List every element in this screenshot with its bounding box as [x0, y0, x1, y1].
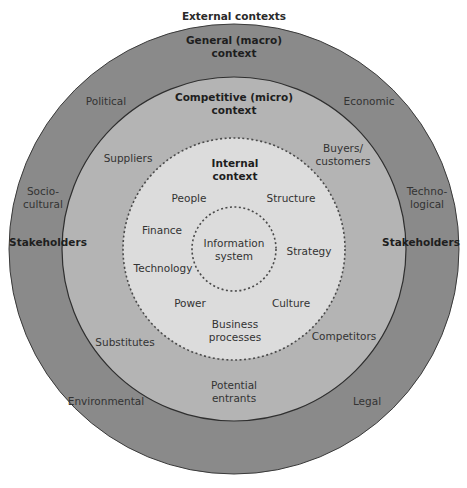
external-contexts-title: External contexts: [182, 10, 286, 23]
substitutes-label: Substitutes: [95, 336, 154, 349]
strategy-label: Strategy: [287, 245, 332, 258]
structure-label: Structure: [267, 192, 316, 205]
sociocultural-label: Socio- cultural: [23, 185, 63, 211]
information-system-label: Information system: [204, 237, 265, 263]
business-processes-label: Business processes: [209, 318, 261, 344]
technology-label: Technology: [134, 262, 193, 275]
stakeholders-right-label: Stakeholders: [382, 236, 460, 249]
buyers-customers-label: Buyers/ customers: [316, 142, 371, 168]
culture-label: Culture: [272, 297, 310, 310]
external-contexts-diagram: External contexts General (macro) contex…: [0, 0, 467, 488]
competitors-label: Competitors: [312, 330, 376, 343]
people-label: People: [172, 192, 207, 205]
stakeholders-left-label: Stakeholders: [9, 236, 87, 249]
competitive-context-heading: Competitive (micro) context: [175, 91, 293, 117]
internal-context-heading: Internal context: [212, 157, 259, 183]
legal-label: Legal: [353, 395, 381, 408]
finance-label: Finance: [142, 224, 182, 237]
economic-label: Economic: [344, 95, 395, 108]
suppliers-label: Suppliers: [104, 152, 153, 165]
power-label: Power: [174, 297, 206, 310]
potential-entrants-label: Potential entrants: [211, 379, 257, 405]
technological-label: Techno- logical: [407, 185, 448, 211]
political-label: Political: [86, 95, 126, 108]
general-context-heading: General (macro) context: [186, 34, 282, 60]
environmental-label: Environmental: [68, 395, 144, 408]
